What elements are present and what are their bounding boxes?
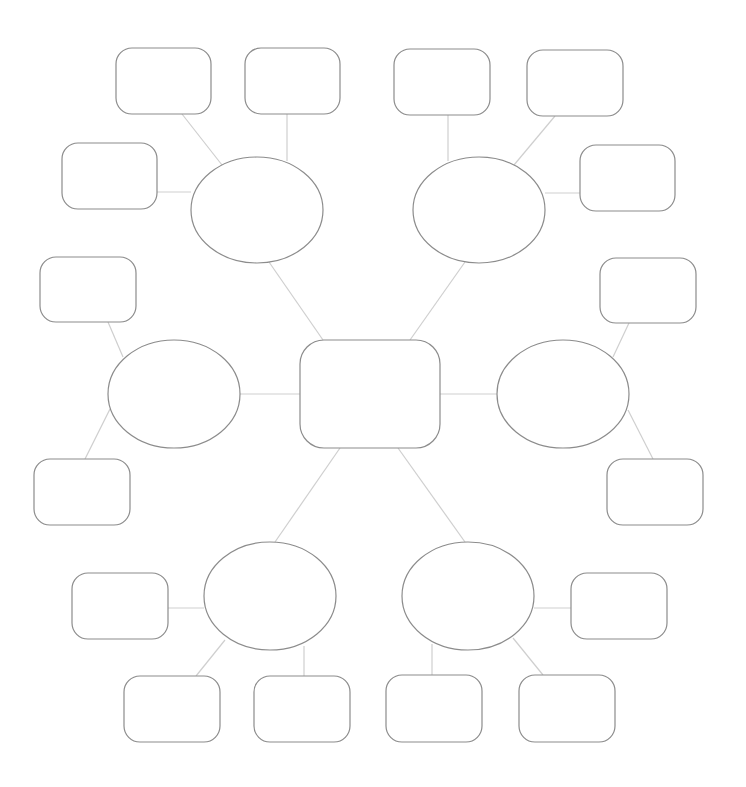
mind-map-canvas <box>0 0 746 787</box>
detail-box-b6-l1[interactable] <box>571 573 667 639</box>
subtopic-b2[interactable] <box>413 157 545 263</box>
detail-box-b4-l1[interactable] <box>600 258 696 323</box>
nodes-layer <box>34 48 703 742</box>
connector-line-b1-to-b1-l1 <box>182 114 222 165</box>
central-topic-box-box[interactable] <box>300 340 440 448</box>
subtopic-ellipse[interactable] <box>108 340 240 448</box>
detail-box-b1-l1-box[interactable] <box>116 48 211 114</box>
detail-box-b2-l1[interactable] <box>394 49 490 115</box>
detail-box-b5-l1[interactable] <box>72 573 168 639</box>
detail-box-b5-l2-box[interactable] <box>124 676 220 742</box>
detail-box-b4-l2-box[interactable] <box>607 459 703 525</box>
detail-box-b1-l3-box[interactable] <box>62 143 157 209</box>
subtopic-b1[interactable] <box>191 157 323 263</box>
detail-box-b6-l2-box[interactable] <box>386 675 482 742</box>
detail-box-b1-l1[interactable] <box>116 48 211 114</box>
detail-box-b5-l3-box[interactable] <box>254 676 350 742</box>
detail-box-b1-l3[interactable] <box>62 143 157 209</box>
connector-line-center-to-b1 <box>269 262 323 340</box>
subtopic-b4[interactable] <box>497 340 629 448</box>
subtopic-b6[interactable] <box>402 542 534 650</box>
detail-box-b2-l2[interactable] <box>527 50 623 116</box>
detail-box-b2-l2-box[interactable] <box>527 50 623 116</box>
connector-line-center-to-b5 <box>275 448 340 542</box>
subtopic-ellipse[interactable] <box>204 542 336 650</box>
detail-box-b6-l2[interactable] <box>386 675 482 742</box>
detail-box-b5-l3[interactable] <box>254 676 350 742</box>
subtopic-b5[interactable] <box>204 542 336 650</box>
connector-line-center-to-b6 <box>398 448 465 542</box>
detail-box-b2-l1-box[interactable] <box>394 49 490 115</box>
subtopic-ellipse[interactable] <box>497 340 629 448</box>
subtopic-ellipse[interactable] <box>191 157 323 263</box>
detail-box-b2-l3-box[interactable] <box>580 145 675 211</box>
connector-line-b2-to-b2-l2 <box>514 116 555 165</box>
connector-line-b3-to-b3-l1 <box>108 322 123 357</box>
detail-box-b3-l1[interactable] <box>40 257 136 322</box>
detail-box-b6-l1-box[interactable] <box>571 573 667 639</box>
detail-box-b3-l1-box[interactable] <box>40 257 136 322</box>
subtopic-b3[interactable] <box>108 340 240 448</box>
detail-box-b4-l1-box[interactable] <box>600 258 696 323</box>
central-topic-box[interactable] <box>300 340 440 448</box>
detail-box-b5-l1-box[interactable] <box>72 573 168 639</box>
connector-line-b5-to-b5-l2 <box>196 640 225 676</box>
detail-box-b2-l3[interactable] <box>580 145 675 211</box>
detail-box-b6-l3[interactable] <box>519 675 615 742</box>
connector-line-b3-to-b3-l2 <box>85 409 110 459</box>
connector-line-center-to-b2 <box>410 262 465 340</box>
detail-box-b5-l2[interactable] <box>124 676 220 742</box>
detail-box-b1-l2[interactable] <box>245 48 340 114</box>
connector-line-b4-to-b4-l1 <box>613 323 629 357</box>
subtopic-ellipse[interactable] <box>402 542 534 650</box>
connector-line-b6-to-b6-l3 <box>513 638 543 675</box>
detail-box-b6-l3-box[interactable] <box>519 675 615 742</box>
connector-line-b4-to-b4-l2 <box>628 410 653 459</box>
detail-box-b3-l2[interactable] <box>34 459 130 525</box>
detail-box-b1-l2-box[interactable] <box>245 48 340 114</box>
subtopic-ellipse[interactable] <box>413 157 545 263</box>
detail-box-b3-l2-box[interactable] <box>34 459 130 525</box>
detail-box-b4-l2[interactable] <box>607 459 703 525</box>
